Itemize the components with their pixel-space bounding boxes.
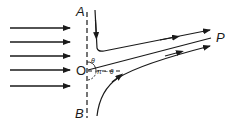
label-A: A	[75, 4, 85, 19]
lower-streamline-arrow-1	[112, 76, 120, 82]
incoming-flow-arrows	[10, 28, 70, 86]
label-theta: θ	[91, 57, 95, 64]
label-pi-minus-theta: π − θ	[97, 68, 114, 75]
upper-streamline	[95, 10, 210, 51]
upper-streamline-down-arrow	[96, 20, 97, 36]
label-O: O	[76, 63, 86, 78]
label-P: P	[216, 30, 225, 45]
flow-diagram: A B O P θ π − θ	[0, 0, 235, 125]
upper-streamline-mid-arrow	[160, 37, 176, 40]
line-O-to-P	[88, 38, 211, 70]
label-B: B	[75, 106, 84, 121]
